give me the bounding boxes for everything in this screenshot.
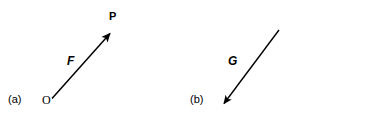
vector-label-g: G (228, 55, 237, 67)
vector-label-f: F (67, 55, 74, 67)
arrow-line-f (52, 34, 110, 99)
point-label-o: O (42, 94, 51, 106)
arrow-vector-f (0, 0, 368, 131)
panel-tag-b: (b) (190, 94, 203, 105)
vector-diagram-figure: (a) O F P (b) G (0, 0, 368, 131)
panel-tag-a: (a) (8, 94, 21, 105)
point-label-p: P (109, 11, 116, 22)
